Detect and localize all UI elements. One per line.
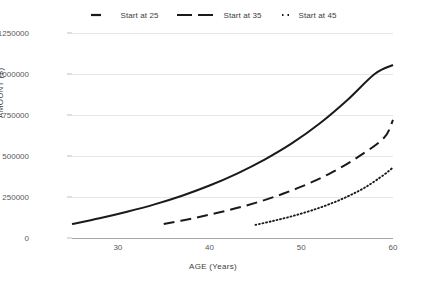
legend-label-start-at-45: Start at 45 [299,11,337,20]
x-tick-label: 40 [190,243,230,252]
x-tick-label: 50 [281,243,321,252]
y-tick-label: 500000 [0,152,29,161]
series-layer [72,33,393,238]
x-tick-label: 60 [373,243,413,252]
y-tick-label: 1000000 [0,70,29,79]
y-tick-label: 1250000 [0,29,29,38]
x-tick-label: 30 [98,243,138,252]
legend-key-solid-icon [89,10,115,20]
legend-item-start-at-35[interactable]: Start at 35 [176,10,261,20]
legend-label-start-at-35: Start at 35 [223,11,261,20]
plot-area [72,33,393,238]
legend-item-start-at-25[interactable]: Start at 25 [89,10,158,20]
y-tick-label: 750000 [0,111,29,120]
chart-legend: Start at 25 Start at 35 Start at 45 [0,10,426,20]
axis-baseline [72,238,393,239]
series-line-start-at-35 [164,120,393,224]
legend-item-start-at-45[interactable]: Start at 45 [280,10,337,20]
legend-label-start-at-25: Start at 25 [120,11,158,20]
y-tick-label: 0 [0,234,29,243]
legend-key-dotted-icon [280,10,294,20]
series-line-start-at-25 [72,65,393,224]
chart-container: Start at 25 Start at 35 Start at 45 AMOU… [0,0,426,286]
y-tick-label: 250000 [0,193,29,202]
series-line-start-at-45 [255,167,393,224]
legend-key-dashed-icon [176,10,218,20]
x-axis-title: AGE (Years) [0,262,426,271]
